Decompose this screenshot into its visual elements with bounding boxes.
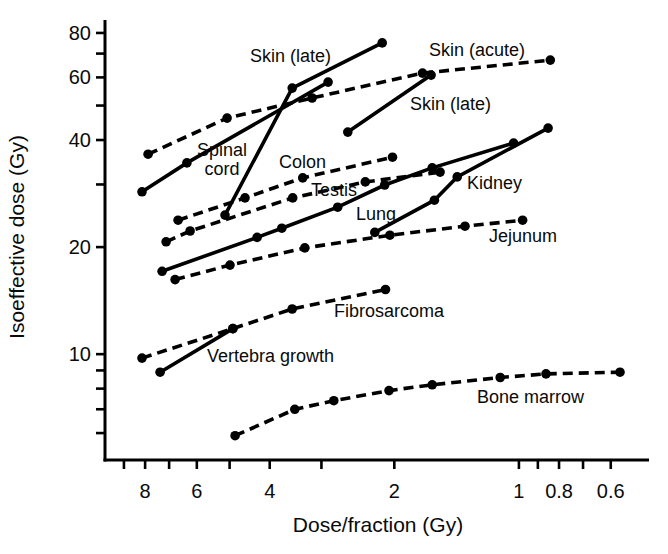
data-point [225, 260, 235, 270]
y-tick-label: 40 [69, 129, 91, 151]
data-point [222, 113, 232, 123]
data-point [426, 70, 436, 80]
data-point [418, 68, 428, 78]
tissue-label: Skin (late) [410, 94, 491, 114]
data-point [287, 83, 297, 93]
data-point [370, 228, 380, 238]
data-point [137, 187, 147, 197]
data-point [161, 237, 171, 247]
data-point [298, 173, 308, 183]
data-point [277, 223, 287, 233]
data-point [170, 275, 180, 285]
y-tick-label: 80 [69, 22, 91, 44]
data-point [385, 230, 395, 240]
data-point [361, 177, 371, 187]
data-point [333, 202, 343, 212]
tissue-label: Bone marrow [477, 387, 585, 407]
tissue-label: Spinalcord [197, 140, 247, 179]
y-tick-label: 20 [69, 236, 91, 258]
tissue-label: Kidney [467, 173, 522, 193]
data-point [543, 123, 553, 133]
y-tick-label: 60 [69, 66, 91, 88]
data-point [143, 149, 153, 159]
y-tick-label: 10 [69, 343, 91, 365]
data-point [430, 195, 440, 205]
data-point [380, 180, 390, 190]
data-point [185, 226, 195, 236]
data-point [240, 193, 250, 203]
tissue-label: Jejunum [489, 226, 557, 246]
data-point [173, 215, 183, 225]
data-point [518, 215, 528, 225]
x-tick-label: 4 [264, 480, 275, 502]
tissue-label: Fibrosarcoma [334, 301, 445, 321]
x-tick-label: 6 [191, 480, 202, 502]
data-point [230, 431, 240, 441]
x-tick-label: 2 [389, 480, 400, 502]
isoeffect-dose-figure: 8060402010864210.80.6 Skin (late)Skin (a… [0, 0, 668, 554]
data-point [290, 405, 300, 415]
x-tick-label: 8 [140, 480, 151, 502]
tissue-label: Colon [279, 152, 326, 172]
data-point [377, 38, 387, 48]
data-point [495, 373, 505, 383]
data-point [323, 77, 333, 87]
data-point [329, 396, 339, 406]
data-point [182, 158, 192, 168]
data-point [287, 304, 297, 314]
data-point [288, 193, 298, 203]
data-point [427, 163, 437, 173]
data-point [615, 367, 625, 377]
data-point [460, 221, 470, 231]
x-tick-label: 0.8 [545, 480, 573, 502]
data-point [541, 369, 551, 379]
data-point [343, 127, 353, 137]
x-tick-label: 0.6 [597, 480, 625, 502]
data-point [252, 233, 262, 243]
isoeffect-chart: 8060402010864210.80.6 Skin (late)Skin (a… [0, 0, 668, 554]
tissue-label: Lung [356, 204, 396, 224]
data-point [452, 172, 462, 182]
data-point [157, 267, 167, 277]
plot-annotations: Skin (late)Skin (acute)Skin (late)Spinal… [197, 40, 585, 407]
tissue-label: Vertebra growth [207, 346, 334, 366]
tissue-label: Skin (acute) [429, 40, 525, 60]
data-point [137, 353, 147, 363]
plot-axes: 8060402010864210.80.6 [69, 20, 649, 502]
data-point [381, 285, 391, 295]
data-point [155, 367, 165, 377]
y-axis-title: Isoeffective dose (Gy) [5, 135, 28, 339]
data-point [427, 380, 437, 390]
data-point [384, 386, 394, 396]
tissue-label: Testis [311, 180, 357, 200]
x-tick-label: 1 [513, 480, 524, 502]
data-point [300, 243, 310, 253]
data-point [388, 152, 398, 162]
tissue-label: Skin (late) [250, 46, 331, 66]
data-point [228, 324, 238, 334]
x-axis-title: Dose/fraction (Gy) [293, 513, 463, 536]
data-point [546, 55, 556, 65]
